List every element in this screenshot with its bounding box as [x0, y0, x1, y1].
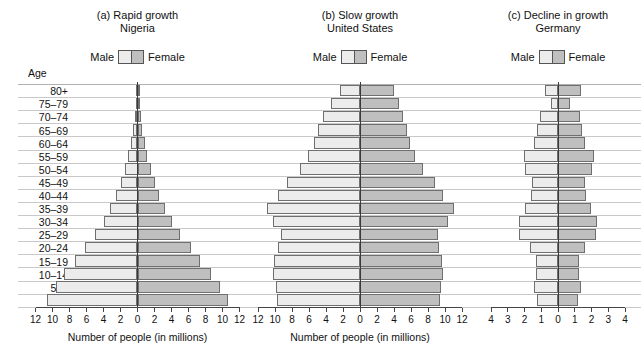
x-axis-tick [343, 308, 344, 312]
bar-male [525, 203, 558, 214]
age-label: 40–44 [6, 190, 68, 202]
age-label: 10–14 [6, 269, 68, 281]
bar-female [360, 281, 441, 292]
x-axis-tick [558, 308, 559, 312]
bar-female [138, 255, 200, 266]
bar-female [558, 111, 580, 122]
bar-female [360, 268, 443, 279]
x-axis-tick [411, 308, 412, 312]
bar-female [360, 294, 440, 305]
bar-female [558, 137, 585, 148]
bar-female [138, 137, 145, 148]
age-label: 20–24 [6, 242, 68, 254]
legend-swatch-male [540, 51, 552, 63]
x-axis-tick [35, 308, 36, 312]
x-axis-tick [625, 308, 626, 312]
bar-female [558, 242, 585, 253]
x-axis-tick [524, 308, 525, 312]
x-axis-title: Number of people (in millions) [250, 331, 470, 343]
bar-male [121, 177, 138, 188]
legend-swatch-female [354, 51, 366, 63]
bar-male [287, 177, 360, 188]
legend-swatch [118, 50, 144, 64]
bar-male [277, 294, 360, 305]
panel-title-nigeria: (a) Rapid growth [28, 9, 248, 22]
bar-female [558, 163, 592, 174]
x-axis-tick [491, 308, 492, 312]
x-axis-tick [360, 308, 361, 312]
bar-female [360, 98, 399, 109]
x-axis-title: Number of people (in millions) [28, 331, 248, 343]
bar-female [558, 190, 586, 201]
x-axis-tick [377, 308, 378, 312]
bar-female [138, 281, 220, 292]
bar-male [273, 268, 360, 279]
bar-male [104, 216, 138, 227]
bar-female [558, 281, 581, 292]
panel-title-germany: (c) Decline in growth [448, 9, 641, 22]
age-column-header: Age [28, 67, 47, 79]
bar-male [110, 203, 137, 214]
x-axis-tick [462, 308, 463, 312]
bar-male [276, 281, 360, 292]
bar-male [536, 268, 558, 279]
bar-female [360, 255, 442, 266]
bar-female [138, 242, 191, 253]
legend-swatch-male [119, 51, 131, 63]
age-label: 35–39 [6, 203, 68, 215]
bar-female [360, 150, 415, 161]
bar-male [536, 255, 558, 266]
x-axis-tick [445, 308, 446, 312]
bar-male [540, 111, 558, 122]
age-label: 70–74 [6, 111, 68, 123]
legend-male-label: Male [313, 51, 337, 63]
bar-female [138, 203, 166, 214]
bar-female [558, 150, 594, 161]
bar-male [273, 216, 360, 227]
bar-male [64, 268, 137, 279]
legend-nigeria: MaleFemale [78, 50, 198, 64]
bar-male [47, 294, 137, 305]
bar-female [360, 216, 448, 227]
x-axis-tick [137, 308, 138, 312]
bar-female [138, 163, 151, 174]
x-axis-tick [541, 308, 542, 312]
legend-swatch [341, 50, 367, 64]
bar-male [525, 163, 559, 174]
legend-swatch-female [552, 51, 564, 63]
legend-male-label: Male [511, 51, 535, 63]
panel-country-nigeria: Nigeria [28, 22, 248, 35]
x-axis-tick-label: 12 [450, 314, 474, 325]
x-axis-tick [86, 308, 87, 312]
bar-male [318, 124, 360, 135]
age-label: 25–29 [6, 229, 68, 241]
x-axis-tick [326, 308, 327, 312]
bar-male [534, 281, 558, 292]
age-label: 15–19 [6, 256, 68, 268]
bar-male [530, 242, 558, 253]
x-axis-tick [258, 308, 259, 312]
legend-germany: MaleFemale [498, 50, 618, 64]
panel-country-united-states: United States [250, 22, 470, 35]
bar-male [524, 150, 558, 161]
bar-female [138, 190, 160, 201]
bar-female [138, 268, 212, 279]
bar-female [558, 98, 570, 109]
bar-female [360, 229, 438, 240]
bar-male [331, 98, 360, 109]
x-axis-tick [608, 308, 609, 312]
x-axis-tick [154, 308, 155, 312]
bar-female [558, 203, 591, 214]
center-axis-line [137, 82, 138, 307]
x-axis-tick-label: 4 [613, 314, 637, 325]
bar-male [531, 190, 558, 201]
legend-female-label: Female [371, 51, 408, 63]
bar-female [138, 216, 172, 227]
bar-female [138, 294, 228, 305]
legend-swatch-female [131, 51, 143, 63]
x-axis-tick [52, 308, 53, 312]
age-label: 50–54 [6, 164, 68, 176]
bar-female [558, 85, 581, 96]
bar-male [85, 242, 138, 253]
x-axis-tick [188, 308, 189, 312]
